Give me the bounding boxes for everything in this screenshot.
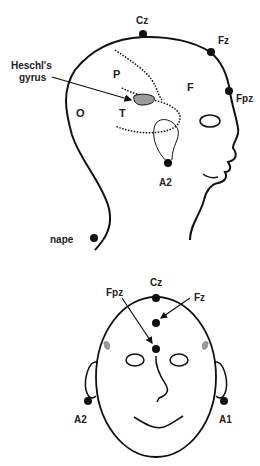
electrode-fpz-side	[225, 87, 233, 95]
label-fz-front: Fz	[194, 292, 205, 303]
label-a2-front: A2	[74, 414, 87, 425]
label-heschls-line2: gyrus	[19, 72, 47, 83]
electrode-fpz-front	[152, 345, 160, 353]
eeg-electrode-diagram: Cz Fz Fpz A2 nape P F O T Heschl's gyrus	[0, 0, 260, 466]
nose-front	[156, 356, 168, 402]
electrode-nape	[90, 234, 98, 242]
mouth-side	[203, 174, 218, 178]
region-parietal: P	[113, 68, 120, 80]
eye-side	[200, 115, 220, 127]
electrode-a2-side	[164, 159, 172, 167]
label-heschls-line1: Heschl's	[11, 60, 52, 71]
diagram-canvas: Cz Fz Fpz A2 nape P F O T Heschl's gyrus	[0, 0, 260, 466]
heschls-gyrus-shape	[134, 94, 155, 105]
head-outline-side	[66, 37, 238, 240]
front-view: Cz Fpz Fz A2 A1	[74, 277, 232, 457]
region-frontal: F	[187, 81, 194, 93]
region-temporal: T	[119, 107, 126, 119]
side-view: Cz Fz Fpz A2 nape P F O T Heschl's gyrus	[11, 15, 253, 250]
central-sulcus	[115, 50, 162, 100]
label-fpz-front: Fpz	[106, 287, 123, 298]
ear-side	[154, 120, 179, 163]
electrode-fz-side	[207, 48, 215, 56]
mouth-front	[134, 416, 183, 428]
electrode-a1-front	[220, 397, 228, 405]
label-a2-side: A2	[159, 177, 172, 188]
label-a1-front: A1	[219, 414, 232, 425]
electrode-cz-front	[152, 294, 160, 302]
label-fz-side: Fz	[218, 35, 229, 46]
heschls-pointer-arrow	[52, 77, 131, 100]
electrode-cz-side	[139, 30, 147, 38]
neck-line	[95, 240, 103, 250]
electrode-a2-front	[84, 397, 92, 405]
label-fpz-side: Fpz	[236, 93, 253, 104]
label-cz-side: Cz	[136, 15, 148, 26]
eye-left-front	[126, 354, 144, 366]
label-cz-front: Cz	[150, 277, 162, 288]
region-occipital: O	[76, 107, 85, 119]
label-nape: nape	[50, 234, 74, 245]
temple-mark-right	[202, 341, 208, 349]
electrode-fz-front	[152, 319, 160, 327]
temple-mark-left	[104, 341, 110, 349]
eye-right-front	[170, 354, 188, 366]
fpz-pointer-arrow	[122, 298, 152, 343]
